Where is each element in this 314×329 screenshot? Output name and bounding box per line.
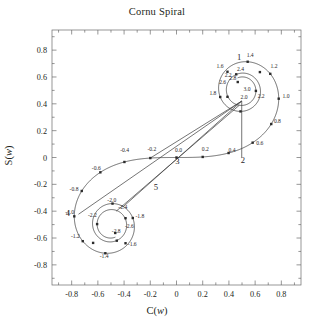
data-marker — [219, 96, 221, 98]
data-marker — [259, 71, 261, 73]
data-marker — [255, 90, 257, 92]
x-tick-label: 0.6 — [250, 290, 260, 299]
x-tick-label: 0 — [174, 290, 178, 299]
x-tick-label: -0.8 — [65, 290, 78, 299]
data-marker — [123, 161, 125, 163]
y-tick-label: 0.4 — [37, 100, 47, 109]
annotation-label: 1 — [237, 52, 241, 62]
point-label: 2.4 — [237, 66, 244, 72]
point-label: 1.0 — [283, 93, 290, 99]
data-marker — [116, 239, 118, 241]
data-marker — [82, 240, 84, 242]
plot-title: Cornu Spiral — [0, 6, 314, 17]
point-label: -1.6 — [128, 241, 137, 247]
point-label: -1.4 — [100, 253, 109, 259]
y-tick-label: -0.8 — [34, 261, 47, 270]
data-marker — [226, 96, 228, 98]
x-tick-label: 0.4 — [224, 290, 234, 299]
point-label: -2.8 — [112, 228, 121, 234]
data-marker — [124, 242, 126, 244]
annotation-label: 2 — [241, 155, 245, 165]
data-marker — [237, 81, 239, 83]
data-marker — [246, 61, 248, 63]
data-marker — [239, 110, 241, 112]
point-label: 2.2 — [258, 93, 265, 99]
point-label: -2.4 — [118, 204, 127, 210]
point-label: 1.8 — [209, 90, 216, 96]
y-tick-label: 0.2 — [37, 127, 47, 136]
point-label: 1.2 — [271, 63, 278, 69]
x-tick-label: -0.4 — [118, 290, 131, 299]
point-label: 2.6 — [219, 79, 226, 85]
y-axis-label: S(w) — [3, 126, 14, 186]
y-tick-label: 0.8 — [37, 46, 47, 55]
data-marker — [92, 242, 94, 244]
point-label: 3.0 — [244, 86, 251, 92]
data-marker — [99, 171, 101, 173]
point-label: 0.8 — [274, 118, 281, 124]
point-label: -0.2 — [147, 146, 156, 152]
point-label: -2.0 — [107, 197, 116, 203]
plot-background — [0, 0, 314, 329]
data-marker — [251, 141, 253, 143]
point-label: -0.6 — [92, 165, 101, 171]
y-tick-label: -0.4 — [34, 207, 47, 216]
x-tick-label: 0.2 — [198, 290, 208, 299]
y-tick-label: 0.6 — [37, 73, 47, 82]
point-label: 0.0 — [175, 147, 182, 153]
point-label: 2.8 — [229, 75, 236, 81]
x-axis-label: C(w) — [0, 305, 314, 316]
data-marker — [124, 217, 126, 219]
point-label: -2.2 — [88, 212, 97, 218]
x-tick-label: -0.6 — [91, 290, 104, 299]
data-marker — [96, 223, 98, 225]
data-marker — [269, 73, 271, 75]
point-label: -2.6 — [125, 223, 134, 229]
data-marker — [132, 217, 134, 219]
y-tick-label: -0.2 — [34, 180, 47, 189]
point-label: 1.4 — [247, 52, 254, 58]
data-marker — [278, 97, 280, 99]
annotation-label: 4 — [66, 208, 71, 218]
point-label: 0.2 — [202, 146, 209, 152]
point-label: -0.4 — [120, 147, 129, 153]
data-marker — [81, 190, 83, 192]
point-label: -0.8 — [70, 186, 79, 192]
point-label: 2.0 — [241, 94, 248, 100]
x-tick-label: 0.8 — [276, 290, 286, 299]
point-label: 1.6 — [217, 63, 224, 69]
data-marker — [73, 215, 75, 217]
plot-canvas: -0.8-0.6-0.4-0.200.20.40.60.80.80.60.40.… — [0, 0, 314, 329]
y-tick-label: -0.6 — [34, 234, 47, 243]
point-label: 0.4 — [229, 147, 236, 153]
data-marker — [202, 156, 204, 158]
annotation-label: 5 — [154, 182, 158, 192]
cornu-spiral-figure: Cornu Spiral -0.8-0.6-0.4-0.200.20.40.60… — [0, 0, 314, 329]
point-label: -1.8 — [135, 213, 144, 219]
annotation-label: 3 — [175, 156, 179, 166]
point-label: -1.2 — [71, 233, 80, 239]
y-tick-label: 0 — [43, 154, 47, 163]
data-marker — [270, 123, 272, 125]
x-tick-label: -0.2 — [144, 290, 157, 299]
data-marker — [149, 157, 151, 159]
point-label: 0.6 — [256, 140, 263, 146]
